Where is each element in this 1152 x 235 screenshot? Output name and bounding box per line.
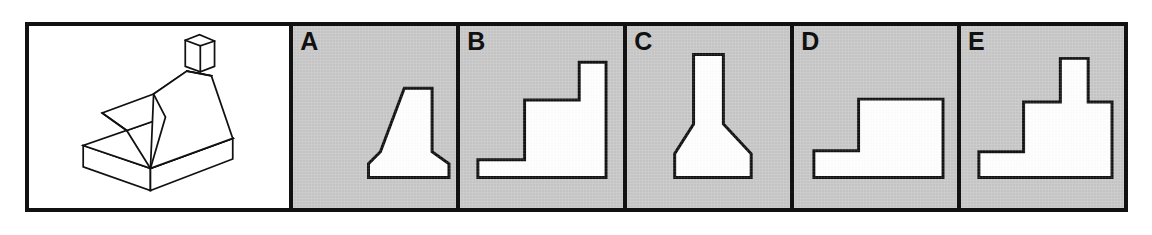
- option-a-silhouette: [369, 88, 449, 177]
- panel-pictorial[interactable]: [29, 26, 289, 208]
- panel-option-e[interactable]: E: [957, 26, 1124, 208]
- isometric-pictorial-drawing: [29, 26, 289, 208]
- option-label-e: E: [968, 28, 984, 54]
- figure-root: A B C D: [0, 0, 1152, 235]
- option-label-c: C: [634, 28, 652, 54]
- option-label-a: A: [300, 28, 318, 54]
- option-label-b: B: [467, 28, 485, 54]
- panel-option-d[interactable]: D: [790, 26, 957, 208]
- option-c-silhouette: [675, 54, 752, 177]
- panel-option-b[interactable]: B: [456, 26, 623, 208]
- panel-option-a[interactable]: A: [289, 26, 456, 208]
- option-e-silhouette: [979, 58, 1112, 177]
- option-label-d: D: [801, 28, 819, 54]
- option-e-shape: [961, 26, 1124, 208]
- figure-frame: A B C D: [25, 22, 1128, 212]
- option-b-silhouette: [478, 62, 606, 177]
- option-d-silhouette: [814, 99, 943, 177]
- panel-option-c[interactable]: C: [623, 26, 790, 208]
